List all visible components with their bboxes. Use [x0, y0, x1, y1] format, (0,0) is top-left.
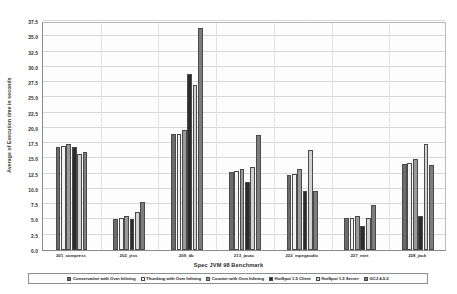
bar — [287, 175, 292, 250]
bar — [240, 169, 245, 250]
bar — [429, 165, 434, 250]
bar — [77, 154, 82, 250]
x-tick-label: 213_javac — [234, 253, 254, 258]
bar-group — [274, 23, 332, 250]
bar-group — [158, 23, 216, 250]
bar — [313, 191, 318, 250]
bar — [171, 134, 176, 250]
bar-group — [216, 23, 274, 250]
bar-group — [389, 23, 447, 250]
legend-swatch-icon — [316, 277, 320, 281]
y-axis-tick-labels: 0.02.55.07.510.012.515.017.520.022.525.0… — [16, 0, 40, 294]
legend-item: Counter with Ovm Inlining — [206, 276, 264, 281]
legend-swatch-icon — [364, 277, 368, 281]
legend-item: HotSpot 1.5 Server — [316, 276, 359, 281]
legend-swatch-icon — [141, 277, 145, 281]
bar — [292, 174, 297, 250]
legend-item: HotSpot 1.5 Client — [269, 276, 311, 281]
y-tick-label: 20.0 — [28, 126, 38, 131]
legend-label: Conservative with Ovm Inlining — [73, 276, 136, 281]
legend-label: HotSpot 1.5 Server — [321, 276, 359, 281]
y-tick-label: 30.0 — [28, 65, 38, 70]
group-separator — [216, 23, 217, 250]
legend-item: Conservative with Ovm Inlining — [67, 276, 135, 281]
y-tick-label: 32.5 — [28, 50, 38, 55]
bar — [135, 212, 140, 250]
y-tick-label: 12.5 — [28, 172, 38, 177]
bar — [182, 130, 187, 250]
bar — [413, 159, 418, 250]
x-tick-label: 201_compress — [56, 253, 86, 258]
y-tick-label: 2.5 — [31, 233, 38, 238]
bar — [355, 216, 360, 250]
bar-group — [101, 23, 159, 250]
bar — [360, 226, 365, 250]
bar — [113, 219, 118, 250]
y-tick-label: 35.0 — [28, 35, 38, 40]
bar — [56, 147, 61, 250]
legend-swatch-icon — [67, 277, 71, 281]
y-tick-label: 25.0 — [28, 96, 38, 101]
bar — [371, 205, 376, 250]
bar — [418, 216, 423, 250]
y-tick-label: 27.5 — [28, 81, 38, 86]
group-separator — [274, 23, 275, 250]
y-tick-label: 5.0 — [31, 218, 38, 223]
legend-label: Thunking with Ovm Inlining — [146, 276, 201, 281]
bar — [193, 85, 198, 250]
legend-swatch-icon — [206, 277, 210, 281]
bar — [198, 28, 203, 250]
x-tick-label: 202_jess — [120, 253, 138, 258]
bar — [83, 152, 88, 250]
chart-legend: Conservative with Ovm InliningThunking w… — [28, 273, 428, 284]
bar-series-container — [43, 23, 445, 250]
bar-chart: Average of Execution time in seconds 0.0… — [0, 0, 457, 294]
bar — [187, 74, 192, 250]
bar — [177, 134, 182, 250]
bar — [72, 147, 77, 250]
bar — [424, 144, 429, 250]
bar — [297, 169, 302, 250]
bar — [229, 172, 234, 250]
group-separator — [332, 23, 333, 250]
group-separator — [101, 23, 102, 250]
bar — [250, 167, 255, 250]
bar — [308, 150, 313, 250]
bar — [119, 218, 124, 250]
y-axis-title: Average of Execution time in seconds — [2, 0, 16, 250]
group-separator — [158, 23, 159, 250]
bar — [344, 218, 349, 250]
bar — [124, 216, 129, 250]
y-axis-title-text: Average of Execution time in seconds — [6, 77, 12, 172]
y-tick-label: 15.0 — [28, 157, 38, 162]
bar — [303, 191, 308, 250]
y-tick-label: 17.5 — [28, 142, 38, 147]
legend-item: Thunking with Ovm Inlining — [141, 276, 202, 281]
group-separator — [389, 23, 390, 250]
y-tick-label: 10.0 — [28, 187, 38, 192]
bar — [66, 144, 71, 250]
x-tick-label: 209_db — [179, 253, 194, 258]
legend-label: GCJ 4.0.2 — [369, 276, 388, 281]
bar — [245, 182, 250, 250]
bar-group — [43, 23, 101, 250]
bar — [130, 219, 135, 250]
bar — [140, 202, 145, 250]
bar — [407, 163, 412, 250]
plot-area — [42, 22, 446, 251]
y-tick-label: 22.5 — [28, 111, 38, 116]
legend-item: GCJ 4.0.2 — [364, 276, 389, 281]
y-tick-label: 0.0 — [31, 249, 38, 254]
x-tick-label: 222_mpegaudio — [285, 253, 318, 258]
legend-label: HotSpot 1.5 Client — [275, 276, 311, 281]
bar — [234, 171, 239, 250]
legend-swatch-icon — [269, 277, 273, 281]
bar — [61, 146, 66, 250]
x-tick-label: 228_jack — [408, 253, 426, 258]
bar — [366, 218, 371, 250]
bar — [350, 218, 355, 250]
gridline — [43, 20, 445, 21]
bar — [402, 164, 407, 250]
legend-label: Counter with Ovm Inlining — [212, 276, 264, 281]
x-tick-label: 227_mtrt — [350, 253, 368, 258]
